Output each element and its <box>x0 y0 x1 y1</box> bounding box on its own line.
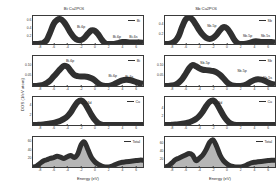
x-tick-label: -6 <box>184 168 187 172</box>
x-tick-label: -6 <box>52 87 55 91</box>
panel-bi-2: 0.050.10-8-6-4-20246Bi-6pBi-6pBi-6sBi <box>32 55 144 87</box>
x-tick-mark <box>268 43 269 45</box>
panel-sb-3: 24-8-6-4-20246Cu-3dCu <box>164 96 276 126</box>
x-tick-mark <box>199 85 200 87</box>
x-tick-label: 4 <box>253 87 255 91</box>
x-tick-mark <box>199 166 200 168</box>
y-tick-mark <box>164 64 166 65</box>
legend: Cu <box>127 100 140 104</box>
x-tick-label: 0 <box>226 168 228 172</box>
x-tick-mark <box>136 166 137 168</box>
y-tick-mark <box>32 36 34 37</box>
x-tick-label: -2 <box>80 45 83 49</box>
x-tick-label: 4 <box>121 168 123 172</box>
x-tick-label: -6 <box>52 126 55 130</box>
x-tick-label: 2 <box>240 87 242 91</box>
x-tick-label: 2 <box>240 45 242 49</box>
x-tick-mark <box>136 124 137 126</box>
x-tick-label: -8 <box>38 126 41 130</box>
y-tick-mark <box>164 23 166 24</box>
x-tick-label: 4 <box>121 45 123 49</box>
x-tick-mark <box>185 85 186 87</box>
x-tick-mark <box>227 85 228 87</box>
x-tick-label: -6 <box>52 168 55 172</box>
x-tick-mark <box>268 166 269 168</box>
x-tick-mark <box>108 43 109 45</box>
x-tick-mark <box>108 124 109 126</box>
x-tick-label: 4 <box>253 168 255 172</box>
plot-area <box>33 16 143 44</box>
x-tick-mark <box>122 166 123 168</box>
x-tick-label: -8 <box>170 45 173 49</box>
x-tick-mark <box>122 85 123 87</box>
x-tick-label: 0 <box>94 45 96 49</box>
x-tick-label: -2 <box>212 126 215 130</box>
x-tick-label: -2 <box>80 87 83 91</box>
legend-swatch <box>259 101 266 102</box>
plot-annotation: Sb-5s <box>261 34 270 38</box>
legend-swatch <box>128 60 135 61</box>
x-tick-mark <box>213 85 214 87</box>
x-tick-mark <box>95 43 96 45</box>
column-sb: Sb Cu2PO6 0.20.4-8-6-4-20246Sb-5pSb-5pSb… <box>150 0 279 191</box>
y-tick-mark <box>32 75 34 76</box>
panel-sb-2: 0.050.10-8-6-4-20246Sb-5pSb-5pSb-5sSb <box>164 55 276 87</box>
x-tick-mark <box>67 166 68 168</box>
plot-area <box>33 56 143 86</box>
x-tick-mark <box>95 124 96 126</box>
y-tick-label: 0.10 <box>25 63 31 67</box>
column-bi: Bi Cu2PO6 0.20.40.6-8-6-4-20246Bi-6pBi-6… <box>18 0 148 191</box>
x-tick-mark <box>122 124 123 126</box>
legend-swatch <box>124 141 131 142</box>
legend: Total <box>256 140 272 144</box>
x-tick-label: 2 <box>240 168 242 172</box>
legend-label: Sb <box>268 19 272 23</box>
x-tick-mark <box>108 166 109 168</box>
x-tick-label: 6 <box>135 126 137 130</box>
y-tick-mark <box>32 20 34 21</box>
x-tick-mark <box>240 43 241 45</box>
x-tick-mark <box>240 124 241 126</box>
x-tick-label: 0 <box>226 87 228 91</box>
y-tick-mark <box>32 64 34 65</box>
plot-annotation: Sb-5p <box>207 24 217 28</box>
x-tick-mark <box>81 85 82 87</box>
x-tick-mark <box>122 43 123 45</box>
plot-annotation: Bi-6s <box>129 35 137 39</box>
x-tick-label: 6 <box>135 168 137 172</box>
x-tick-mark <box>213 124 214 126</box>
legend-label: Total <box>132 140 140 144</box>
plot-annotation: Cu-3d <box>82 101 92 105</box>
x-tick-label: -6 <box>52 45 55 49</box>
dos-figure: DOS (1/eV atom) Bi Cu2PO6 0.20.40.6-8-6-… <box>0 0 279 191</box>
x-tick-mark <box>40 85 41 87</box>
y-tick-mark <box>164 143 166 144</box>
plot-annotation: Bi-6p <box>77 25 85 29</box>
plot-annotation: Bi-6p <box>109 74 117 78</box>
x-tick-mark <box>40 124 41 126</box>
x-tick-mark <box>240 166 241 168</box>
plot-annotation: Sb-5p <box>200 61 210 65</box>
column-title-bi: Bi Cu2PO6 <box>18 6 130 11</box>
x-tick-label: 2 <box>240 126 242 130</box>
x-tick-mark <box>40 43 41 45</box>
x-tick-label: -6 <box>184 87 187 91</box>
legend: Sb <box>259 59 272 63</box>
x-tick-label: 4 <box>253 45 255 49</box>
legend-label: Bi <box>137 19 140 23</box>
y-tick-mark <box>164 159 166 160</box>
x-tick-label: -4 <box>198 45 201 49</box>
x-tick-mark <box>254 85 255 87</box>
x-axis-title-bi: Energy (eV) <box>32 176 144 181</box>
x-tick-label: 2 <box>108 126 110 130</box>
x-tick-mark <box>227 43 228 45</box>
x-tick-mark <box>199 124 200 126</box>
y-tick-mark <box>32 141 34 142</box>
x-tick-label: -2 <box>80 126 83 130</box>
x-tick-label: 2 <box>108 87 110 91</box>
y-tick-mark <box>164 107 166 108</box>
column-title-sb: Sb Cu2PO6 <box>150 6 262 11</box>
legend: Total <box>124 140 140 144</box>
x-tick-label: 6 <box>267 168 269 172</box>
x-tick-mark <box>95 85 96 87</box>
